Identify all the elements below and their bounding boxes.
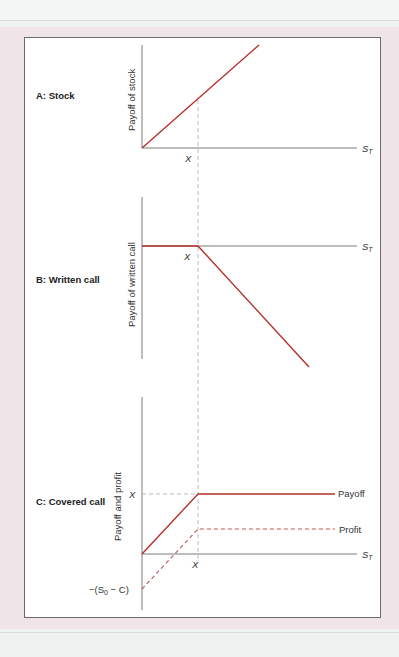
panel-c-x-label: ST xyxy=(362,549,373,561)
panel-b: B: Written call Payoff of written call S… xyxy=(36,197,373,367)
covered-call-diagram: A: Stock Payoff of stock ST X B: Written… xyxy=(0,0,399,657)
panel-a-strike-label: X xyxy=(184,153,192,164)
panel-a: A: Stock Payoff of stock ST X xyxy=(36,45,373,164)
panel-b-strike-label: X xyxy=(183,251,191,262)
panel-a-payoff-line xyxy=(142,45,259,148)
panel-b-y-label: Payoff of written call xyxy=(126,242,137,327)
panel-c-profit-legend: Profit xyxy=(339,524,362,535)
panel-c-payoff-legend: Payoff xyxy=(338,488,365,499)
panel-b-x-label: ST xyxy=(362,241,373,253)
panel-c-profit-line xyxy=(142,529,335,589)
panel-c: C: Covered call Payoff and profit X ST X… xyxy=(36,397,373,610)
panel-b-title: B: Written call xyxy=(36,274,100,285)
panel-c-y-label: Payoff and profit xyxy=(112,472,123,541)
panel-c-intercept-label: −(S0 − C) xyxy=(89,584,129,596)
panel-a-y-label: Payoff of stock xyxy=(126,69,137,131)
panel-a-title: A: Stock xyxy=(36,90,75,101)
panel-c-y-level-label: X xyxy=(128,489,136,500)
bottom-toolbar xyxy=(0,632,399,657)
panel-c-title: C: Covered call xyxy=(36,496,105,507)
panel-b-payoff-line xyxy=(142,246,309,367)
panel-c-strike-label: X xyxy=(191,559,199,570)
panel-a-x-label: ST xyxy=(362,143,373,155)
panel-c-payoff-line xyxy=(142,494,335,554)
